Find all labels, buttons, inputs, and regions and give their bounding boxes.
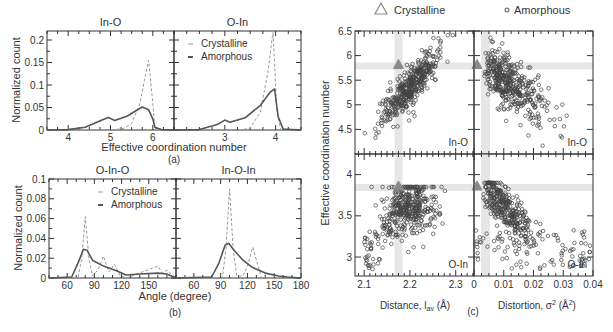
amorphous-point: [434, 201, 438, 205]
y-tick-label: 0: [38, 125, 44, 136]
amorphous-point: [529, 231, 533, 235]
amorphous-point: [578, 254, 582, 258]
amorphous-point: [373, 127, 377, 131]
x-tick-label: 180: [293, 280, 310, 291]
scatter-panel-in-o-distance: [355, 31, 474, 154]
amorphous-point: [374, 136, 378, 140]
y-tick-label: 0.05: [25, 102, 45, 113]
amorphous-point: [543, 99, 547, 103]
legend-amorphous-label: Amorphous: [111, 199, 162, 210]
amorphous-point: [476, 258, 480, 262]
x-tick-label: 90: [89, 280, 101, 291]
x-axis-label-a: Effective coordination number: [101, 141, 247, 153]
x-tick-label: 4: [273, 132, 279, 143]
amorphous-point: [561, 103, 565, 107]
panel-tag: In-O: [568, 137, 588, 148]
y-tick-label: 6: [346, 50, 352, 61]
amorphous-point: [570, 255, 574, 259]
x-tick-label: 0: [471, 279, 477, 290]
amorphous-point: [519, 260, 523, 264]
amorphous-point: [478, 236, 482, 240]
y-tick-label: 5: [346, 99, 352, 110]
amorphous-point: [374, 204, 378, 208]
amorphous-point: [383, 207, 387, 211]
amorphous-point: [561, 243, 565, 247]
amorphous-point: [515, 195, 519, 199]
amorphous-point: [536, 252, 540, 256]
plot-frame: [355, 31, 474, 154]
amorphous-point: [433, 225, 437, 229]
x-tick-label: 2.2: [403, 279, 417, 290]
x-axis-label-distance: Distance, lav (Å): [380, 299, 450, 312]
amorphous-point: [421, 228, 425, 232]
amorphous-point: [376, 122, 380, 126]
amorphous-point: [506, 245, 510, 249]
legend-triangle-icon: [375, 3, 387, 14]
panel-tag: O-In: [568, 259, 587, 270]
amorphous-point: [474, 229, 478, 233]
amorphous-point: [430, 76, 434, 80]
amorphous-point: [524, 114, 528, 118]
figure-canvas: 45600.050.10.150.2In-O34O-InCrystallineA…: [0, 0, 613, 332]
amorphous-point: [515, 263, 519, 267]
amorphous-point: [412, 110, 416, 114]
amorphous-point: [561, 263, 565, 267]
amorphous-point: [572, 229, 576, 233]
amorphous-point: [432, 36, 436, 40]
amorphous-point: [519, 265, 523, 269]
amorphous-point: [562, 125, 566, 129]
amorphous-point: [511, 196, 515, 200]
amorphous-point: [498, 47, 502, 51]
panel-title: O-In-O: [96, 164, 130, 176]
amorphous-point: [581, 252, 585, 256]
amorphous-point: [588, 244, 592, 248]
y-tick-label: 0: [40, 273, 46, 284]
amorphous-point: [391, 236, 395, 240]
amorphous-point: [404, 234, 408, 238]
scatter-panel-o-in-distance: [355, 154, 474, 276]
scatter-panel-o-in-distortion: [472, 154, 593, 276]
amorphous-point: [524, 211, 528, 215]
panel-title: In-O-In: [221, 164, 255, 176]
y-axis-label-c: Effective coordination number: [319, 80, 331, 226]
amorphous-point: [520, 207, 524, 211]
amorphous-point: [446, 34, 450, 38]
series-amorphous: [49, 249, 176, 278]
x-tick-label: 0.02: [524, 279, 544, 290]
amorphous-point: [381, 246, 385, 250]
panel-tag: In-O: [449, 137, 469, 148]
series-amorphous: [174, 89, 301, 130]
legend-crystalline-label: Crystalline: [111, 186, 158, 197]
amorphous-point: [516, 199, 520, 203]
amorphous-point: [412, 246, 416, 250]
x-tick-label: 150: [266, 280, 283, 291]
panel-b-in-o-in: [176, 179, 301, 278]
legend-amorphous-label-c: Amorphous: [514, 4, 571, 16]
legend-amorphous-label: Amorphous: [201, 51, 252, 62]
amorphous-point: [553, 118, 557, 122]
amorphous-point: [422, 245, 426, 249]
amorphous-point: [420, 48, 424, 52]
y-tick-label: 0.2: [30, 35, 44, 46]
amorphous-point: [435, 58, 439, 62]
amorphous-point: [366, 247, 370, 251]
amorphous-point: [510, 267, 514, 271]
amorphous-point: [497, 246, 501, 250]
amorphous-point: [498, 231, 502, 235]
amorphous-point: [527, 134, 531, 138]
amorphous-point: [534, 220, 538, 224]
y-tick-label: 3: [346, 252, 352, 263]
x-tick-label: 120: [113, 280, 130, 291]
amorphous-point: [407, 250, 411, 254]
y-tick-label: 0.06: [27, 213, 47, 224]
amorphous-point: [429, 46, 433, 50]
amorphous-point: [501, 257, 505, 261]
amorphous-point: [431, 232, 435, 236]
caption-b: (b): [169, 307, 181, 318]
y-tick-label: 0.02: [27, 253, 47, 264]
legend-crystalline-label: Crystalline: [201, 38, 248, 49]
series-amorphous: [176, 243, 301, 278]
amorphous-point: [495, 224, 499, 228]
series-crystalline: [47, 60, 174, 130]
amorphous-point: [579, 241, 583, 245]
